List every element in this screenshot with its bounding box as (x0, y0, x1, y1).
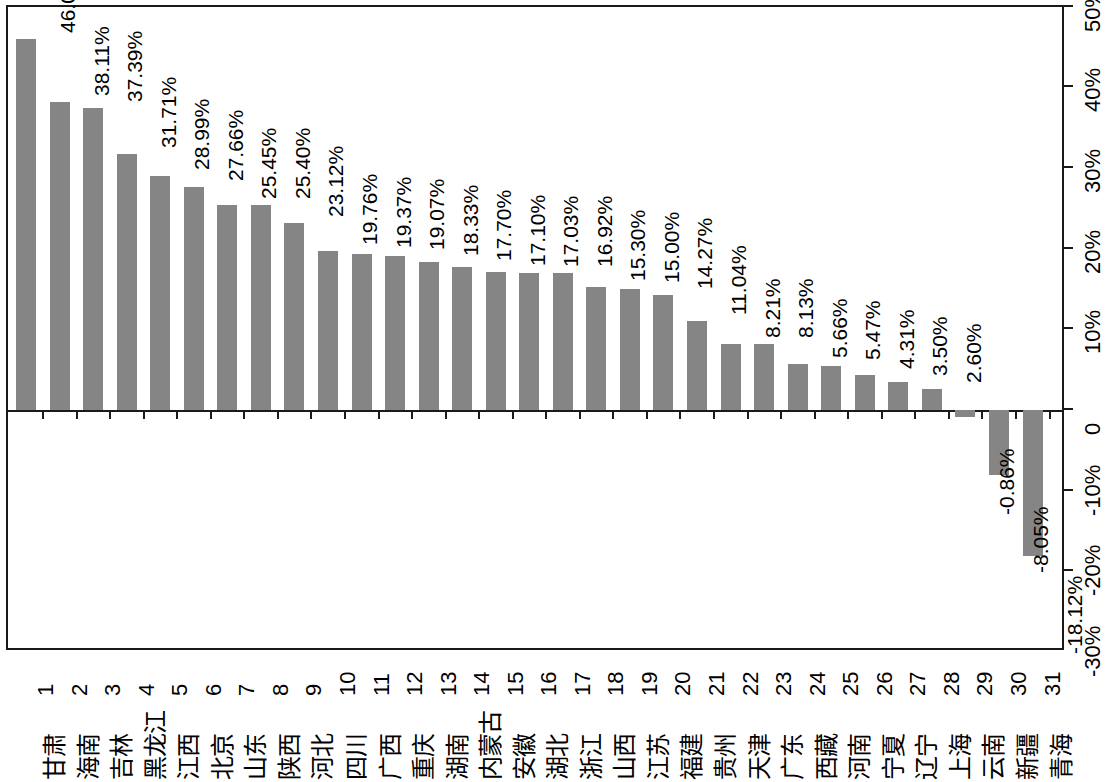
category-name-label: 湖南 (438, 734, 473, 780)
category-rank-label: 11 (369, 673, 395, 696)
value-axis-tick (1064, 5, 1073, 7)
category-tick (914, 410, 916, 419)
category-tick (310, 410, 312, 419)
category-name-label: 贵州 (706, 734, 741, 780)
bar (50, 102, 70, 410)
category-rank-label: 13 (436, 672, 462, 696)
category-name-label: 天津 (740, 734, 775, 780)
category-rank-label: 14 (469, 672, 495, 696)
bar (385, 256, 405, 410)
category-rank-label: 6 (201, 684, 227, 696)
bar (318, 251, 338, 410)
category-rank-label: 4 (134, 684, 160, 696)
bar-value-label: 23.12% (324, 146, 348, 217)
value-axis-tick (1064, 408, 1073, 410)
value-axis-tick (1064, 85, 1073, 87)
category-name-label: 北京 (203, 734, 238, 780)
chart-canvas: 46.01%38.11%37.39%31.71%28.99%27.66%25.4… (0, 0, 1108, 782)
category-rank-label: 26 (872, 672, 898, 696)
bar-value-label: 27.66% (224, 110, 248, 181)
bar-value-label: 15.30% (626, 209, 650, 280)
plot-area: 46.01%38.11%37.39%31.71%28.99%27.66%25.4… (6, 5, 1064, 650)
category-tick (243, 410, 245, 419)
bar (754, 344, 774, 410)
value-axis-tick-label: 50% (1080, 0, 1106, 32)
bar (16, 39, 36, 410)
category-tick (210, 410, 212, 419)
category-rank-label: 7 (234, 684, 260, 696)
value-axis-tick-label: 20% (1080, 230, 1106, 274)
bar (284, 223, 304, 410)
category-name-label: 江苏 (639, 734, 674, 780)
category-tick (378, 410, 380, 419)
category-tick (143, 410, 145, 419)
bar-value-label: 25.45% (257, 127, 281, 198)
bar (519, 273, 539, 410)
category-tick (747, 410, 749, 419)
category-tick (109, 410, 111, 419)
bar-value-label: 18.33% (459, 185, 483, 256)
category-tick (344, 410, 346, 419)
category-name-label: 新疆 (1008, 734, 1043, 780)
category-rank-label: 18 (603, 672, 629, 696)
category-rank-label: 29 (972, 672, 998, 696)
category-name-label: 广西 (371, 734, 406, 780)
category-rank-label: 2 (67, 684, 93, 696)
category-name-label: 山西 (605, 734, 640, 780)
bar-value-label: 4.31% (895, 310, 919, 370)
bar-value-label: 17.10% (526, 195, 550, 266)
category-rank-label: 28 (939, 672, 965, 696)
category-rank-label: 16 (536, 672, 562, 696)
bar-value-label: 46.01% (56, 0, 80, 33)
value-axis-tick (1064, 327, 1073, 329)
category-tick (176, 410, 178, 419)
category-tick (579, 410, 581, 419)
category-rank-label: 12 (402, 672, 428, 696)
bar-value-label: 16.92% (593, 196, 617, 267)
bar-value-label: 31.71% (157, 77, 181, 148)
category-tick (814, 410, 816, 419)
category-name-label: 福建 (672, 734, 707, 780)
bar (788, 364, 808, 410)
bar-value-label: 3.50% (928, 316, 952, 376)
category-name-label: 海南 (69, 734, 104, 780)
zero-baseline (8, 410, 1062, 412)
bar (553, 273, 573, 410)
category-tick (679, 410, 681, 419)
category-rank-label: 21 (704, 672, 730, 696)
bar (150, 176, 170, 410)
category-tick (780, 410, 782, 419)
bar (721, 344, 741, 410)
bar (821, 366, 841, 410)
bar-value-label: 28.99% (190, 99, 214, 170)
category-tick (512, 410, 514, 419)
category-rank-label: 19 (637, 672, 663, 696)
category-tick (646, 410, 648, 419)
bar-value-label: 14.27% (693, 218, 717, 289)
category-name-label: 广东 (773, 734, 808, 780)
category-name-label: 辽宁 (907, 734, 942, 780)
category-tick (713, 410, 715, 419)
value-axis-tick-label: 10% (1080, 310, 1106, 354)
category-tick (42, 410, 44, 419)
value-axis-tick (1064, 489, 1073, 491)
category-name-label: 陕西 (270, 734, 305, 780)
bar-value-label: 19.76% (358, 173, 382, 244)
bar (117, 154, 137, 410)
value-axis-tick-label: 40% (1080, 68, 1106, 112)
bar (586, 287, 606, 410)
category-rank-label: 31 (1040, 672, 1066, 696)
category-rank-label: 23 (771, 672, 797, 696)
category-name-label: 甘肃 (35, 734, 70, 780)
category-name-label: 吉林 (102, 734, 137, 780)
category-name-label: 山东 (236, 734, 271, 780)
category-name-label: 上海 (941, 734, 976, 780)
category-rank-label: 3 (100, 684, 126, 696)
category-name-label: 浙江 (572, 734, 607, 780)
bar (855, 375, 875, 410)
value-axis-tick-label: 0 (1080, 423, 1106, 435)
bar-value-label: 25.40% (291, 128, 315, 199)
category-rank-label: 5 (167, 684, 193, 696)
category-rank-label: 1 (33, 684, 59, 696)
bar-value-label: -8.05% (1029, 506, 1053, 573)
